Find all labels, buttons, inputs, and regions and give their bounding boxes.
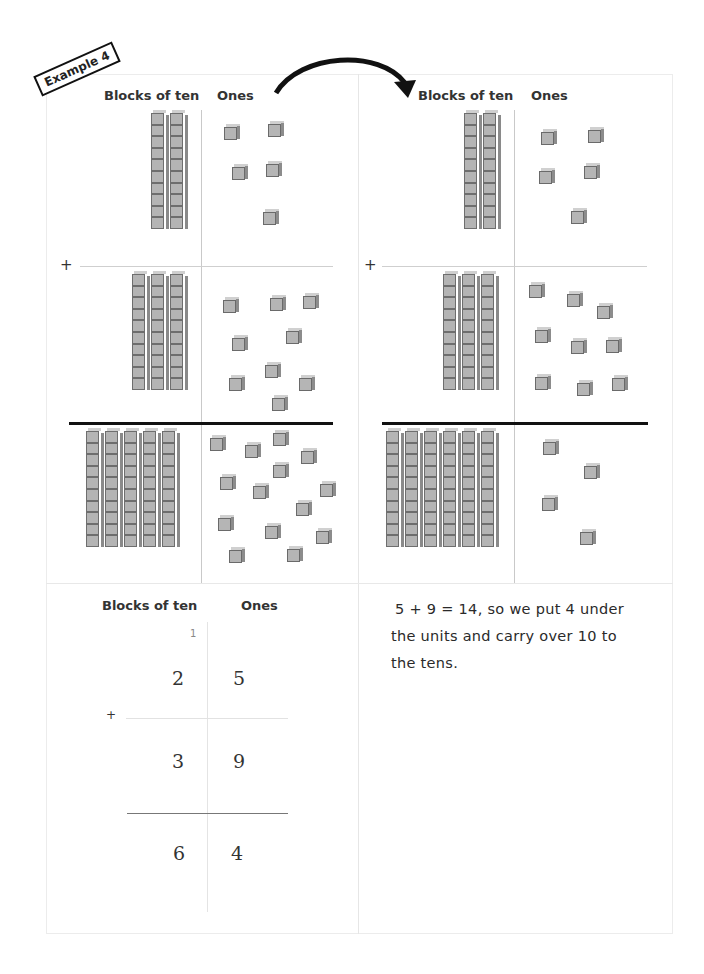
ten-rod <box>170 274 185 390</box>
explanation-line-2: the units and carry over 10 to <box>391 623 617 650</box>
one-cube <box>218 518 231 531</box>
one-cube <box>265 365 278 378</box>
ones-header-right: Ones <box>531 88 568 103</box>
one-cube <box>272 398 285 411</box>
panel-divider-horizontal <box>46 583 673 584</box>
ten-rod <box>151 113 166 229</box>
one-cube <box>223 300 236 313</box>
plus-sign-left: + <box>60 256 73 274</box>
sum-line-right <box>382 422 648 425</box>
one-cube <box>273 433 286 446</box>
one-cube <box>263 212 276 225</box>
explanation-line-3: the tens. <box>391 650 458 677</box>
one-cube <box>253 486 266 499</box>
ten-rod <box>386 431 401 547</box>
ones-header-written: Ones <box>241 598 278 613</box>
one-cube <box>597 306 610 319</box>
one-cube <box>224 127 237 140</box>
ten-rod <box>481 431 496 547</box>
tens-header-right: Blocks of ten <box>418 88 513 103</box>
written-result-tens: 6 <box>173 842 185 864</box>
ten-rod <box>170 113 185 229</box>
ten-rod <box>462 431 477 547</box>
one-cube <box>606 340 619 353</box>
ten-rod <box>443 431 458 547</box>
one-cube <box>220 477 233 490</box>
ten-rod <box>483 113 498 229</box>
addend-divider-right <box>382 266 647 267</box>
plus-sign-written: + <box>106 708 116 722</box>
one-cube <box>535 330 548 343</box>
one-cube <box>535 377 548 390</box>
one-cube <box>245 445 258 458</box>
addend-divider-written <box>126 718 288 719</box>
one-cube <box>529 285 542 298</box>
plus-sign-right: + <box>364 256 377 274</box>
one-cube <box>229 550 242 563</box>
written-result-ones: 4 <box>231 842 243 864</box>
one-cube <box>229 378 242 391</box>
one-cube <box>612 378 625 391</box>
one-cube <box>301 451 314 464</box>
one-cube <box>273 465 286 478</box>
carry-digit: 1 <box>190 628 196 639</box>
one-cube <box>270 298 283 311</box>
one-cube <box>210 438 223 451</box>
one-cube <box>584 166 597 179</box>
one-cube <box>232 338 245 351</box>
column-separator-right <box>514 110 515 583</box>
addend-divider-left <box>80 266 333 267</box>
one-cube <box>539 171 552 184</box>
written-row2-ones: 9 <box>233 750 245 772</box>
one-cube <box>268 124 281 137</box>
sum-line-written <box>127 813 288 814</box>
column-separator-written <box>207 622 208 912</box>
ten-rod <box>443 274 458 390</box>
written-row2-tens: 3 <box>172 750 184 772</box>
one-cube <box>588 130 601 143</box>
one-cube <box>571 211 584 224</box>
tens-header-left: Blocks of ten <box>104 88 199 103</box>
ten-rod <box>162 431 177 547</box>
ten-rod <box>481 274 496 390</box>
ones-header-left: Ones <box>217 88 254 103</box>
ten-rod <box>124 431 139 547</box>
one-cube <box>316 531 329 544</box>
ten-rod <box>462 274 477 390</box>
ten-rod <box>132 274 147 390</box>
ten-rod <box>105 431 120 547</box>
one-cube <box>299 378 312 391</box>
one-cube <box>542 498 555 511</box>
one-cube <box>286 331 299 344</box>
panel-divider-vertical <box>358 74 359 934</box>
curved-arrow-right-icon <box>270 55 420 100</box>
written-row1-tens: 2 <box>172 667 184 689</box>
one-cube <box>571 341 584 354</box>
tens-header-written: Blocks of ten <box>102 598 197 613</box>
one-cube <box>232 167 245 180</box>
one-cube <box>287 549 300 562</box>
one-cube <box>296 503 309 516</box>
one-cube <box>577 383 590 396</box>
one-cube <box>541 132 554 145</box>
ten-rod <box>151 274 166 390</box>
ten-rod <box>424 431 439 547</box>
column-separator-left <box>201 110 202 583</box>
ten-rod <box>143 431 158 547</box>
ten-rod <box>405 431 420 547</box>
one-cube <box>320 484 333 497</box>
one-cube <box>543 442 556 455</box>
sum-line-left <box>69 422 333 425</box>
one-cube <box>303 296 316 309</box>
written-row1-ones: 5 <box>233 667 245 689</box>
one-cube <box>580 532 593 545</box>
ten-rod <box>464 113 479 229</box>
one-cube <box>567 294 580 307</box>
ten-rod <box>86 431 101 547</box>
one-cube <box>265 526 278 539</box>
one-cube <box>584 466 597 479</box>
explanation-line-1: 5 + 9 = 14, so we put 4 under <box>395 596 624 623</box>
one-cube <box>266 164 279 177</box>
